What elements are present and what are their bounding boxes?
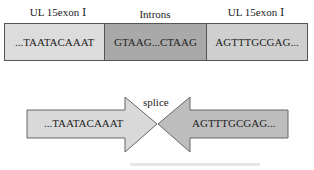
left-arrow-sequence: ...TAATACAAAT [44,117,123,129]
splice-label: splice [143,96,169,108]
faint-caption-line [130,163,260,166]
splice-arrows [0,0,314,170]
right-arrow-sequence: AGTTTGCGAG... [192,117,275,129]
